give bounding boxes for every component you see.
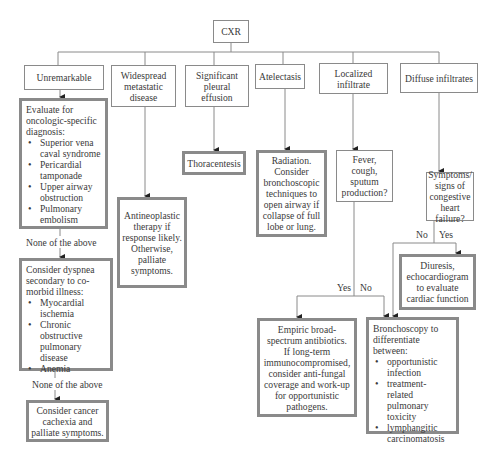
node-localized-infiltrate: Localized infiltrate: [319, 63, 388, 94]
fever-label: Fever, cough, sputum production?: [342, 154, 388, 198]
none-of-the-above-label-2: None of the above: [32, 379, 103, 390]
bronchoscopy-item: lymphangitic carcinomatosis: [373, 422, 452, 444]
none-of-the-above-label-1: None of the above: [26, 237, 97, 248]
node-atelectasis-label: Atelectasis: [259, 71, 301, 82]
node-unremarkable-label: Unremarkable: [37, 72, 92, 83]
thoracentesis-label: Thoracentesis: [187, 158, 240, 169]
node-diffuse-label: Diffuse infiltrates: [405, 73, 473, 84]
node-evaluate-oncologic: Evaluate for oncologic-specific diagnosi…: [19, 98, 108, 229]
comorbid-list: Myocardial ischemia Chronic obstructive …: [26, 297, 106, 374]
comorbid-heading: Consider dyspnea secondary to co-morbid …: [26, 264, 106, 297]
cachexia-label: Consider cancer cachexia and palliate sy…: [31, 405, 103, 438]
chf-label: Symptoms/ signs of congestive heart fail…: [428, 169, 472, 224]
fever-yes-label: Yes: [337, 282, 351, 293]
node-comorbid-illness: Consider dyspnea secondary to co-morbid …: [19, 258, 113, 371]
node-fever-cough-sputum: Fever, cough, sputum production?: [336, 150, 393, 202]
comorbid-item: Anemia: [26, 363, 106, 374]
node-cxr-label: CXR: [221, 26, 241, 37]
bronchoscopy-list: opportunistic infection treatment-relate…: [373, 356, 452, 444]
node-diffuse-infiltrates: Diffuse infiltrates: [400, 63, 478, 93]
evaluate-item: Upper airway obstruction: [26, 181, 101, 203]
empiric-label: Empiric broad- spectrum antibiotics. If …: [264, 324, 351, 412]
evaluate-list: Superior vena caval syndrome Pericardial…: [26, 137, 101, 225]
diuresis-label: Diuresis, echocardiogram to evaluate car…: [406, 260, 468, 304]
bronchoscopy-heading: Bronchoscopy to differentiate between:: [373, 323, 452, 356]
node-antineoplastic-therapy: Antineoplastic therapy if response likel…: [117, 197, 187, 288]
node-diuresis-echocardiogram: Diuresis, echocardiogram to evaluate car…: [399, 254, 476, 310]
node-widespread-metastatic-disease: Widespread metastatic disease: [111, 65, 176, 107]
node-unremarkable: Unremarkable: [24, 65, 104, 90]
node-atelectasis: Atelectasis: [255, 64, 305, 89]
bronchoscopy-item: treatment-related pulmonary toxicity: [373, 378, 452, 422]
chf-no-label: No: [416, 229, 428, 240]
evaluate-item: Pulmonary embolism: [26, 203, 101, 225]
node-cxr: CXR: [213, 20, 249, 43]
node-thoracentesis: Thoracentesis: [182, 151, 246, 175]
antineoplastic-label: Antineoplastic therapy if response likel…: [122, 210, 182, 276]
evaluate-heading: Evaluate for oncologic-specific diagnosi…: [26, 104, 101, 137]
node-radiation: Radiation. Consider bronchoscopic techni…: [256, 150, 327, 237]
node-pleural-label: Significant pleural effusion: [196, 70, 238, 103]
node-significant-pleural-effusion: Significant pleural effusion: [185, 65, 249, 107]
node-widespread-label: Widespread metastatic disease: [121, 70, 166, 103]
node-congestive-heart-failure: Symptoms/ signs of congestive heart fail…: [426, 172, 474, 221]
node-bronchoscopy: Bronchoscopy to differentiate between: o…: [366, 317, 459, 434]
comorbid-item: Myocardial ischemia: [26, 297, 106, 319]
node-cancer-cachexia: Consider cancer cachexia and palliate sy…: [26, 400, 109, 442]
chf-yes-label: Yes: [439, 229, 453, 240]
fever-no-label: No: [360, 282, 372, 293]
bronchoscopy-item: opportunistic infection: [373, 356, 452, 378]
evaluate-item: Pericardial tamponade: [26, 159, 101, 181]
comorbid-item: Chronic obstructive pulmonary disease: [26, 319, 106, 363]
node-empiric-antibiotics: Empiric broad- spectrum antibiotics. If …: [257, 318, 357, 417]
evaluate-item: Superior vena caval syndrome: [26, 137, 101, 159]
radiation-label: Radiation. Consider bronchoscopic techni…: [263, 155, 321, 232]
node-localized-label: Localized infiltrate: [335, 68, 373, 90]
